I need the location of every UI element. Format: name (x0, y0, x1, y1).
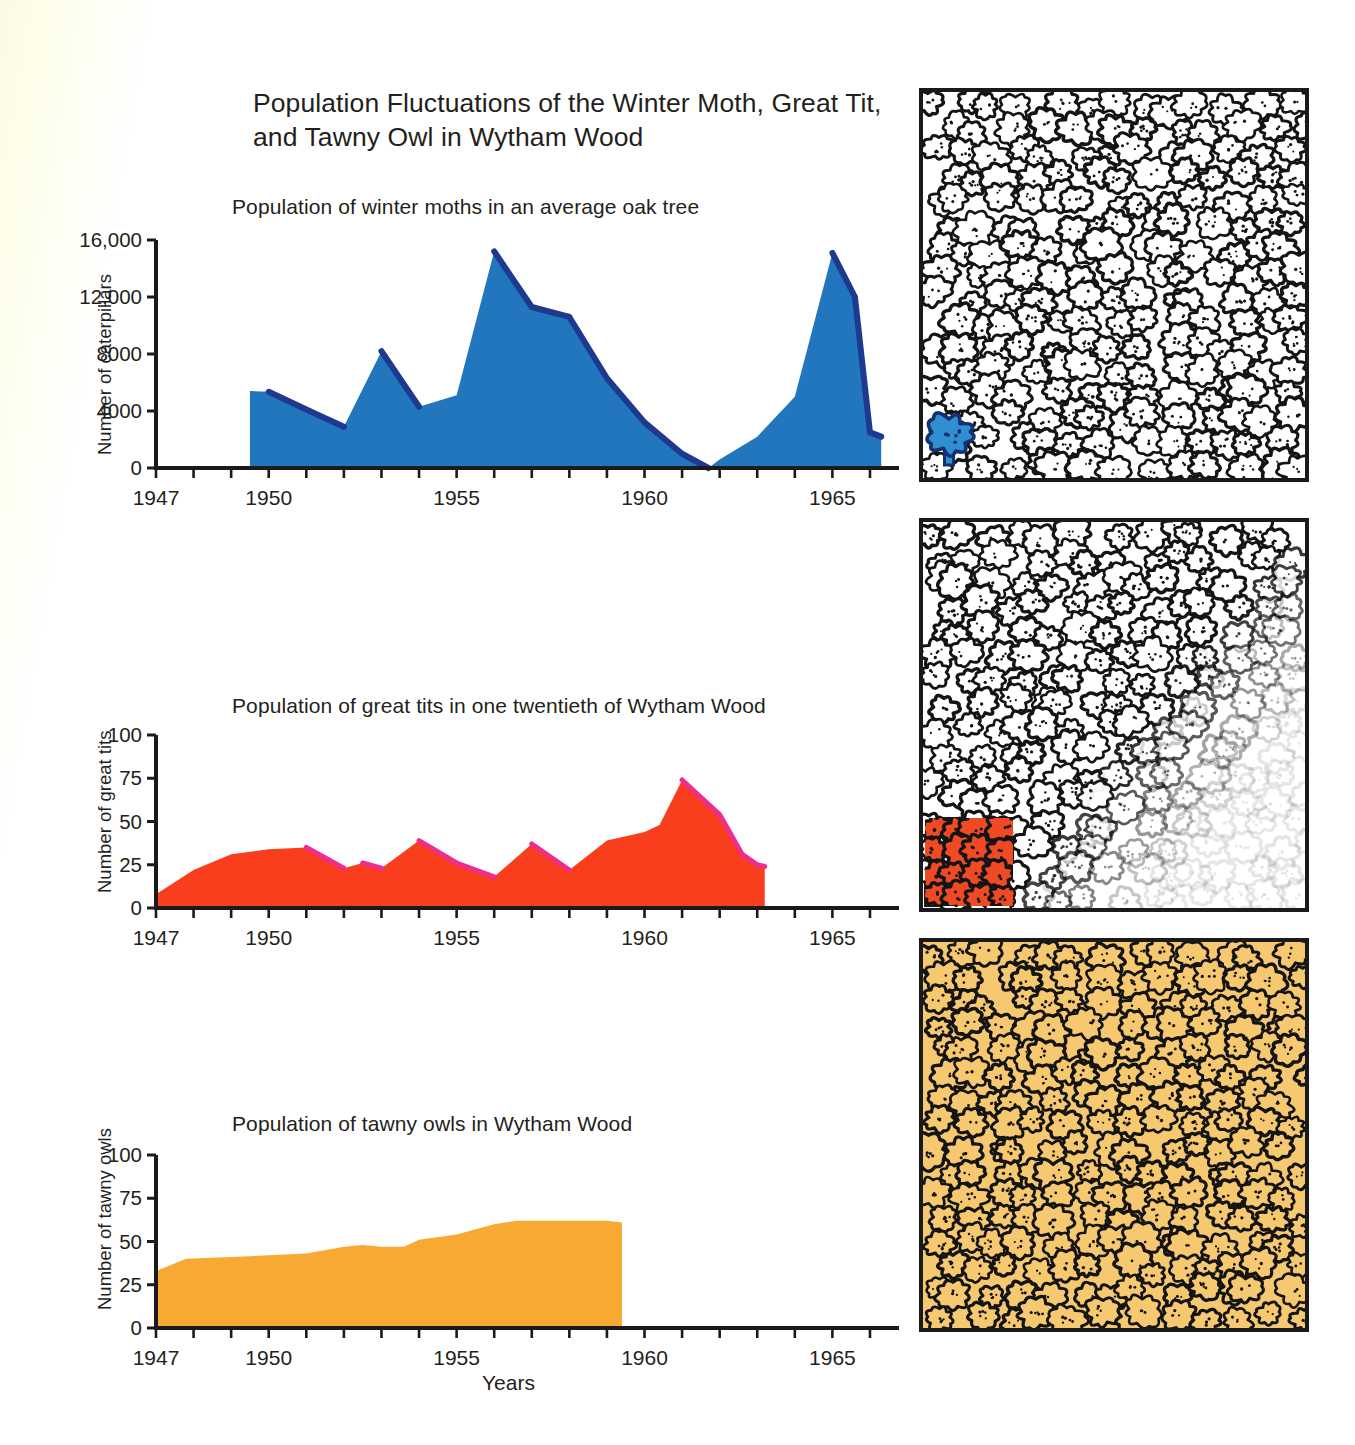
y-tick-label: 25 (119, 853, 142, 876)
tree-speckle (998, 798, 1001, 801)
tree-speckle (1059, 901, 1062, 904)
tree-speckle (976, 235, 978, 237)
tree-speckle (947, 610, 950, 613)
tree-speckle (1037, 371, 1040, 374)
tree-speckle (1137, 204, 1140, 207)
tree-speckle (1231, 361, 1234, 364)
tree-speckle (1003, 390, 1006, 393)
tree-speckle (1064, 746, 1067, 749)
tree-speckle (1296, 342, 1299, 345)
tree-speckle (953, 441, 957, 445)
tree-speckle (1045, 1078, 1047, 1080)
tree-speckle (1242, 465, 1244, 467)
tree-speckle (1012, 465, 1015, 468)
tree-speckle (1205, 661, 1207, 663)
tree-speckle (978, 1273, 980, 1275)
tree-speckle (1059, 169, 1061, 171)
tree-speckle (1191, 1044, 1194, 1047)
tree-speckle (1129, 1285, 1132, 1288)
tree-speckle (1104, 866, 1107, 869)
tree-speckle (967, 1104, 970, 1107)
tree-speckle (1131, 1004, 1134, 1007)
tree-speckle (991, 253, 993, 255)
tree-speckle (1019, 1245, 1022, 1248)
tree-speckle (1283, 577, 1286, 580)
tree-speckle (1111, 222, 1114, 225)
tree-speckle (1288, 179, 1291, 182)
tree-speckle (988, 776, 991, 779)
tree-speckle (1173, 524, 1175, 526)
tree-speckle (1096, 605, 1099, 608)
tree-speckle (1210, 796, 1212, 798)
area-series-great-tits (156, 780, 765, 908)
tree-speckle (1022, 656, 1025, 659)
tree-speckle (1129, 652, 1131, 654)
tree-speckle (1155, 1218, 1158, 1221)
tree-speckle (1282, 317, 1284, 319)
tree-speckle (1180, 1296, 1182, 1298)
tree-speckle (1078, 230, 1080, 232)
tree-speckle (1245, 171, 1248, 174)
tree-speckle (1231, 897, 1234, 900)
tree-speckle (1214, 771, 1217, 774)
tree-speckle (968, 132, 971, 135)
tree-speckle (1273, 1246, 1276, 1249)
tree-speckle (954, 434, 958, 438)
tree-speckle (989, 154, 991, 156)
tree-speckle (1290, 1046, 1293, 1049)
tree-speckle (1050, 281, 1052, 283)
tree-speckle (991, 1297, 993, 1299)
tree-speckle (946, 268, 948, 270)
tree-speckle (1036, 435, 1038, 437)
tree-speckle (1047, 1023, 1050, 1026)
tree-speckle (1119, 576, 1122, 579)
tree-speckle (1193, 1127, 1196, 1130)
tree-speckle (1057, 171, 1060, 174)
tree-speckle (1245, 802, 1248, 805)
tree-speckle (1208, 678, 1210, 680)
tree-speckle (1089, 1245, 1091, 1247)
tree-speckle (1159, 611, 1162, 614)
tree-speckle (953, 194, 956, 197)
tree-speckle (1138, 377, 1141, 380)
tree-speckle (937, 290, 940, 293)
tree-speckle (1189, 532, 1191, 534)
tree-speckle (1296, 1176, 1298, 1178)
tree-speckle (1030, 1311, 1033, 1314)
tree-crown (1016, 304, 1048, 334)
tree-speckle (1255, 241, 1258, 244)
tree-speckle (1065, 1262, 1068, 1265)
tree-speckle (1072, 411, 1074, 413)
tree-speckle (1158, 1192, 1161, 1195)
tree-speckle (1024, 585, 1026, 587)
tree-speckle (1229, 1072, 1232, 1075)
tree-speckle (1231, 748, 1234, 751)
tree-speckle (942, 1030, 945, 1033)
tree-speckle (1268, 977, 1271, 980)
tree-speckle (980, 1218, 982, 1220)
tree-speckle (1117, 469, 1119, 471)
tree-speckle (1081, 864, 1083, 866)
tree-speckle (1223, 274, 1225, 276)
tree-speckle (1115, 775, 1117, 777)
tree-speckle (1271, 1122, 1273, 1124)
tree-speckle (1298, 742, 1301, 745)
tree-speckle (1083, 1173, 1086, 1176)
tree-speckle (1100, 664, 1102, 666)
tree-speckle (999, 898, 1002, 901)
tree-speckle (1068, 102, 1070, 104)
tree-speckle (1041, 439, 1043, 441)
tree-speckle (1260, 673, 1262, 675)
tree-speckle (1242, 801, 1245, 804)
tree-speckle (950, 795, 952, 797)
tree-speckle (1100, 983, 1102, 985)
tree-speckle (940, 146, 943, 149)
tree-speckle (1111, 472, 1114, 475)
tree-speckle (988, 384, 991, 387)
tree-speckle (1017, 1247, 1019, 1249)
tree-speckle (1081, 322, 1084, 325)
tree-speckle (1096, 1314, 1098, 1316)
tree-speckle (1186, 790, 1189, 793)
tree-speckle (1233, 1267, 1235, 1269)
tree-speckle (1071, 861, 1074, 864)
